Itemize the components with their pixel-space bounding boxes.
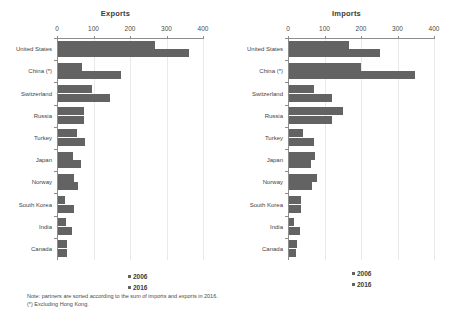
y-axis-tick [285, 38, 288, 39]
gridline [130, 38, 131, 260]
x-axis-tick-label: 100 [88, 25, 99, 32]
x-axis-tick-label: 100 [319, 25, 330, 32]
legend-swatch-2016 [352, 283, 355, 286]
y-axis-tick [285, 216, 288, 217]
bar-2006 [58, 152, 73, 160]
category-label: United States [247, 46, 283, 52]
bar-2016 [58, 227, 72, 235]
y-axis-tick [54, 216, 57, 217]
x-axis-tick [288, 36, 289, 39]
bar-2016 [289, 249, 296, 257]
bar-2016 [58, 49, 189, 57]
legend-label-2016: 2016 [357, 281, 371, 288]
x-axis-tick-label: 400 [198, 25, 209, 32]
panel-title-imports: Imports [231, 9, 462, 18]
category-label: Russia [34, 113, 52, 119]
bar-2016 [289, 94, 332, 102]
note-sorting: Note: partners are sorted according to t… [27, 292, 218, 300]
panel-title-exports: Exports [0, 9, 231, 18]
bar-2006 [289, 174, 317, 182]
x-axis-tick [398, 36, 399, 39]
bar-2016 [58, 160, 81, 168]
x-axis-tick [325, 36, 326, 39]
category-label: Russia [265, 113, 283, 119]
x-axis-tick [94, 36, 95, 39]
x-axis-tick [203, 36, 204, 39]
bar-2016 [58, 116, 84, 124]
category-label: Japan [267, 157, 283, 163]
gridline [434, 38, 435, 260]
x-axis-tick-label: 300 [161, 25, 172, 32]
bar-2006 [289, 107, 343, 115]
bar-2006 [289, 152, 315, 160]
chart-figure: Exports 0100200300400United StatesChina … [0, 0, 463, 320]
chart-panel-imports: Imports 0100200300400United StatesChina … [231, 0, 462, 268]
chart-notes: Note: partners are sorted according to t… [27, 292, 218, 308]
bar-2016 [289, 227, 300, 235]
x-axis-tick [130, 36, 131, 39]
category-label: Switzerland [252, 91, 283, 97]
bar-2006 [289, 41, 349, 49]
category-label: South Korea [250, 202, 283, 208]
category-label: Switzerland [21, 91, 52, 97]
x-axis-tick [57, 36, 58, 39]
y-axis-tick [285, 82, 288, 83]
bar-2016 [58, 205, 74, 213]
bar-2006 [289, 63, 361, 71]
legend-swatch-2006 [352, 272, 355, 275]
x-axis-tick [167, 36, 168, 39]
y-axis-tick [54, 238, 57, 239]
category-label: Canada [31, 246, 52, 252]
x-axis-tick-label: 300 [392, 25, 403, 32]
category-label: Norway [32, 179, 52, 185]
bar-2006 [58, 174, 74, 182]
bar-2016 [58, 182, 78, 190]
category-label: Japan [36, 157, 52, 163]
x-axis-tick-label: 0 [286, 25, 290, 32]
y-axis-tick [285, 127, 288, 128]
bar-2016 [289, 205, 301, 213]
note-hong-kong: (*) Excluding Hong Kong. [27, 300, 218, 308]
bar-2006 [289, 240, 297, 248]
bar-2016 [289, 116, 332, 124]
bar-2006 [289, 129, 303, 137]
y-axis-tick [54, 105, 57, 106]
y-axis-tick [54, 82, 57, 83]
y-axis-tick [285, 238, 288, 239]
y-axis-tick [54, 38, 57, 39]
bar-2006 [58, 129, 77, 137]
legend-swatch-2006 [128, 275, 131, 278]
x-axis-tick-label: 200 [356, 25, 367, 32]
y-axis-tick [285, 171, 288, 172]
category-label: Canada [262, 246, 283, 252]
y-axis-tick [285, 60, 288, 61]
bar-2006 [58, 107, 84, 115]
y-axis-tick [54, 193, 57, 194]
bar-2006 [58, 85, 92, 93]
legend-item: 2016 [128, 284, 147, 291]
legend-label-2006: 2006 [357, 270, 371, 277]
bar-2006 [58, 240, 67, 248]
gridline [203, 38, 204, 260]
gridline [167, 38, 168, 260]
bar-2016 [58, 94, 110, 102]
y-axis-tick [285, 193, 288, 194]
category-label: South Korea [19, 202, 52, 208]
bar-2006 [289, 218, 294, 226]
bar-2016 [289, 160, 311, 168]
x-axis-tick-label: 0 [55, 25, 59, 32]
category-label: India [270, 224, 283, 230]
bar-2016 [58, 138, 85, 146]
legend-label-2016: 2016 [133, 284, 147, 291]
category-label: Norway [263, 179, 283, 185]
y-axis-tick [54, 60, 57, 61]
category-label: United States [16, 46, 52, 52]
category-label: China (*) [259, 68, 283, 74]
legend-item: 2006 [352, 270, 371, 277]
legend-item: 2016 [352, 281, 371, 288]
legend-label-2006: 2006 [133, 273, 147, 280]
bar-2016 [58, 249, 67, 257]
x-axis-tick [361, 36, 362, 39]
y-axis-tick [285, 105, 288, 106]
bar-2006 [289, 85, 314, 93]
